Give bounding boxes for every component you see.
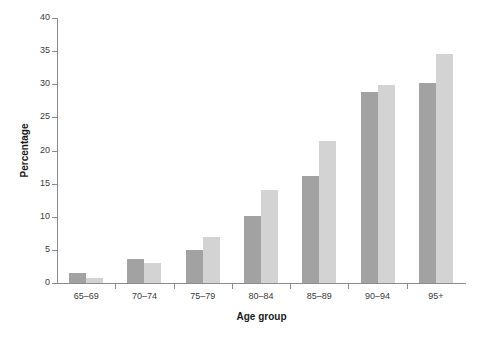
y-axis-tick-label: 10	[26, 212, 50, 221]
bar	[69, 273, 86, 283]
y-axis-tick-label: 25	[26, 112, 50, 121]
bar	[436, 54, 453, 283]
x-axis-tick-label: 95+	[407, 292, 465, 301]
y-axis-tick-label: 40	[26, 13, 50, 22]
bar	[419, 83, 436, 283]
x-axis-tick	[115, 284, 116, 289]
bar	[378, 85, 395, 283]
bar	[127, 259, 144, 284]
plot-area	[57, 18, 465, 283]
y-axis-tick-label: 35	[26, 46, 50, 55]
bar	[86, 278, 103, 283]
bar	[361, 92, 378, 283]
bar	[244, 216, 261, 283]
x-axis-tick-label: 65–69	[57, 292, 115, 301]
y-axis-tick-label: 15	[26, 179, 50, 188]
bar-chart: Percentage 0510152025303540 65–6970–7475…	[0, 0, 477, 338]
y-axis-tick	[52, 283, 57, 284]
x-axis-title: Age group	[57, 311, 466, 323]
x-axis-tick-label: 75–79	[174, 292, 232, 301]
y-axis-tick-label: 20	[26, 146, 50, 155]
x-axis-tick	[407, 284, 408, 289]
x-axis-tick-label: 85–89	[290, 292, 348, 301]
y-axis-tick-label: 30	[26, 79, 50, 88]
bar	[203, 237, 220, 283]
y-axis-tick-label: 0	[26, 278, 50, 287]
x-axis-line	[57, 283, 466, 284]
x-axis-tick	[290, 284, 291, 289]
bar	[144, 263, 161, 283]
x-axis-tick	[174, 284, 175, 289]
x-axis-tick	[348, 284, 349, 289]
bar	[261, 190, 278, 283]
y-axis-tick-label: 5	[26, 245, 50, 254]
bar	[319, 141, 336, 283]
x-axis-tick-label: 90–94	[348, 292, 406, 301]
x-axis-tick-label: 70–74	[115, 292, 173, 301]
bar	[186, 250, 203, 283]
x-axis-tick-label: 80–84	[232, 292, 290, 301]
bar	[302, 176, 319, 283]
x-axis-tick	[232, 284, 233, 289]
